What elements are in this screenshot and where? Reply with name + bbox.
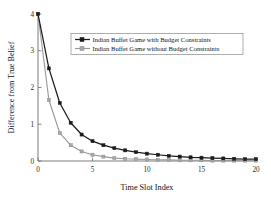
y-axis-title: Difference from True Belief [7,41,16,133]
data-point-with-budget [189,156,192,159]
x-tick-label-15: 15 [198,166,206,174]
x-tick-label-10: 10 [143,166,151,174]
data-point-with-budget [233,157,236,160]
data-point-without-budget [47,98,50,101]
legend-label-with-budget: Indian Buffet Game with Budget Constrain… [93,36,212,43]
y-tick-label-0: 0 [30,158,34,166]
data-point-with-budget [178,155,181,158]
legend: Indian Buffet Game with Budget Constrain… [71,34,243,55]
data-point-with-budget [211,157,214,160]
data-point-with-budget [91,140,94,143]
data-point-without-budget [145,158,148,161]
x-axis: 0 5 10 15 20 Time Slot Index [36,158,260,193]
legend-marker-without-budget [80,47,84,51]
data-point-without-budget [80,150,83,153]
data-point-without-budget [189,159,192,162]
data-point-with-budget [135,151,138,154]
data-point-with-budget [145,152,148,155]
data-point-without-budget [69,144,72,147]
data-point-with-budget [36,12,39,15]
data-point-with-budget [244,158,247,161]
data-point-with-budget [124,149,127,152]
data-point-without-budget [91,153,94,156]
data-point-with-budget [102,144,105,147]
x-tick-label-0: 0 [36,166,40,174]
data-point-with-budget [156,153,159,156]
y-tick-label-1: 1 [30,121,34,129]
data-point-with-budget [80,133,83,136]
line-chart: 0 1 2 3 4 Difference from True Belief 0 … [0,0,271,209]
legend-entry-without-budget[interactable]: Indian Buffet Game without Budget Constr… [75,45,220,52]
legend-label-without-budget: Indian Buffet Game without Budget Constr… [93,45,220,52]
legend-marker-with-budget [80,38,84,42]
data-point-without-budget [135,158,138,161]
data-point-with-budget [113,147,116,150]
data-point-with-budget [254,158,257,161]
data-point-with-budget [58,101,61,104]
data-point-without-budget [156,158,159,161]
data-point-with-budget [47,67,50,70]
chart-figure: 0 1 2 3 4 Difference from True Belief 0 … [0,0,271,209]
data-point-with-budget [167,154,170,157]
legend-entry-with-budget[interactable]: Indian Buffet Game with Budget Constrain… [75,36,211,43]
x-tick-label-20: 20 [252,166,260,174]
data-point-with-budget [200,156,203,159]
y-tick-label-3: 3 [30,47,34,55]
x-axis-title: Time Slot Index [121,183,174,192]
data-point-without-budget [167,158,170,161]
data-point-without-budget [102,155,105,158]
y-axis: 0 1 2 3 4 Difference from True Belief [7,11,42,166]
data-point-without-budget [58,132,61,135]
data-point-without-budget [124,157,127,160]
data-point-without-budget [178,159,181,162]
data-point-without-budget [113,157,116,160]
x-tick-label-5: 5 [91,166,95,174]
y-tick-label-2: 2 [30,84,34,92]
y-tick-label-4: 4 [30,11,34,19]
data-point-with-budget [222,157,225,160]
data-point-with-budget [69,121,72,124]
